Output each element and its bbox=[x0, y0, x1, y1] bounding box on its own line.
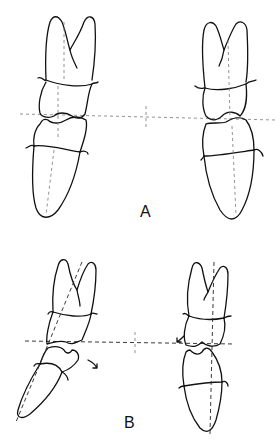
right-lower-tooth bbox=[201, 40, 263, 219]
right-upper-tooth bbox=[195, 22, 256, 120]
left-lower-tooth bbox=[26, 22, 88, 217]
right-upper-tooth-b bbox=[177, 263, 231, 347]
right-lower-tooth-b bbox=[179, 262, 228, 434]
panel-a-drawing bbox=[20, 17, 275, 219]
left-upper-tooth bbox=[38, 17, 98, 118]
left-upper-tooth-b bbox=[47, 260, 97, 344]
panel-b-drawing bbox=[16, 260, 235, 434]
dental-diagram: A B bbox=[0, 0, 275, 442]
diagram-canvas bbox=[0, 0, 275, 442]
long-axis-left-b bbox=[16, 262, 82, 422]
panel-label-b: B bbox=[124, 414, 135, 432]
long-axis-right-b bbox=[210, 262, 214, 434]
panel-label-a: A bbox=[140, 203, 151, 221]
